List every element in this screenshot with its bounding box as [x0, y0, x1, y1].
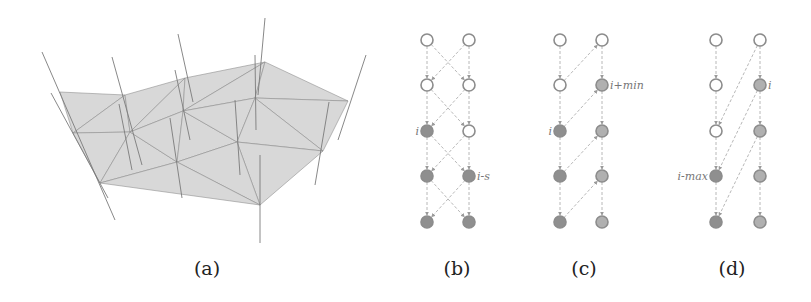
graph-node-hollow — [421, 34, 433, 46]
node-label: i-max — [678, 170, 709, 183]
graph-edge — [564, 90, 597, 126]
graph-node-filled — [754, 216, 766, 228]
vertex-normal-line — [338, 55, 366, 140]
mesh-triangle — [255, 62, 348, 101]
node-label: i — [768, 79, 772, 92]
node-label: i-s — [477, 170, 490, 183]
graph-node-filled — [710, 170, 722, 182]
graph-node-filled — [754, 125, 766, 137]
graph-node-filled — [754, 170, 766, 182]
graph-node-hollow — [554, 79, 566, 91]
caption-a: (a) — [194, 257, 220, 279]
node-label: i — [415, 125, 419, 138]
graph-node-filled — [421, 125, 433, 137]
graph-node-hollow — [421, 79, 433, 91]
node-label: i — [548, 125, 552, 138]
graph-node-hollow — [596, 34, 608, 46]
graph-node-filled — [554, 170, 566, 182]
graph-node-hollow — [710, 79, 722, 91]
graph-node-hollow — [463, 79, 475, 91]
graph-edge — [564, 181, 597, 217]
graph-node-hollow — [463, 34, 475, 46]
graph-edge — [719, 90, 757, 169]
graph-node-hollow — [463, 125, 475, 137]
graph-node-filled — [710, 216, 722, 228]
caption-b: (b) — [444, 257, 471, 279]
panel-c-graph: i+mini — [548, 34, 643, 228]
graph-node-filled — [421, 216, 433, 228]
panel-a-mesh — [42, 18, 366, 243]
node-label: i+min — [610, 79, 644, 92]
graph-node-hollow — [754, 34, 766, 46]
graph-node-filled — [421, 170, 433, 182]
graph-node-filled — [554, 125, 566, 137]
caption-d: (d) — [719, 257, 746, 279]
graph-edge — [564, 136, 597, 171]
graph-node-hollow — [710, 34, 722, 46]
figure: ii-s i+mini ii-max (a) (b) (c) (d) — [0, 0, 811, 302]
graph-node-filled — [463, 216, 475, 228]
graph-node-filled — [596, 170, 608, 182]
graph-node-hollow — [554, 34, 566, 46]
panel-b-graph: ii-s — [415, 34, 490, 228]
graph-node-filled — [596, 216, 608, 228]
graph-node-hollow — [710, 125, 722, 137]
graph-node-filled — [596, 125, 608, 137]
caption-c: (c) — [571, 257, 596, 279]
graph-node-filled — [463, 170, 475, 182]
graph-edge — [564, 45, 597, 80]
graph-edge — [719, 45, 757, 124]
graph-node-filled — [554, 216, 566, 228]
graph-node-filled — [754, 79, 766, 91]
graph-node-filled — [596, 79, 608, 91]
panel-d-graph: ii-max — [678, 34, 772, 228]
graph-edge — [719, 136, 757, 215]
figure-canvas: ii-s i+mini ii-max — [0, 0, 811, 302]
